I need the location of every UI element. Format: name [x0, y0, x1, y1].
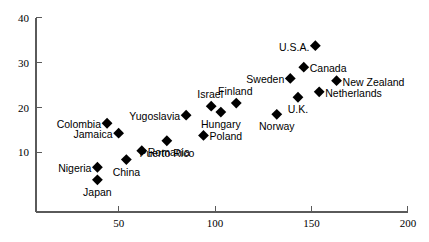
data-point-marker [285, 73, 296, 84]
data-point-marker [293, 92, 304, 103]
data-point-label: Jamaica [74, 129, 113, 140]
data-point-marker [271, 109, 282, 120]
data-point-marker [92, 162, 103, 173]
data-point-marker [231, 98, 242, 109]
data-point-label: Norway [259, 121, 295, 132]
data-point-marker [92, 174, 103, 185]
data-point-marker [331, 75, 342, 86]
data-point-label: Finland [218, 86, 252, 97]
y-axis-tick-label: 20 [18, 102, 29, 113]
data-point-label: U.S.A. [279, 41, 309, 52]
data-point-marker [113, 128, 124, 139]
x-axis-tick-label: 100 [207, 218, 224, 229]
data-point-label: Poland [209, 131, 242, 142]
data-point-label: Canada [310, 63, 347, 74]
data-point-marker [198, 130, 209, 141]
data-point-label: U.K. [288, 104, 308, 115]
data-point-label: China [113, 166, 140, 177]
data-point-label: New Zealand [343, 76, 405, 87]
x-axis-tick-label: 150 [303, 218, 320, 229]
data-point-marker [121, 154, 132, 165]
data-point-label: Sweden [246, 74, 284, 85]
data-point-label: Netherlands [325, 87, 382, 98]
data-point-marker [215, 107, 226, 118]
y-axis-tick-label: 30 [18, 57, 29, 68]
data-point-label: Yugoslavia [129, 111, 180, 122]
data-point-marker [181, 110, 192, 121]
y-axis-tick-label: 10 [18, 147, 29, 158]
y-axis-tick-label: 40 [18, 12, 29, 23]
data-point-marker [206, 101, 217, 112]
data-point-label: Puerto Rico [139, 147, 194, 158]
x-axis-tick-label: 50 [113, 218, 124, 229]
data-point-label: Japan [83, 186, 112, 197]
data-point-marker [298, 62, 309, 73]
data-point-label: Hungary [201, 119, 241, 130]
data-point-marker [310, 40, 321, 51]
scatter-chart: 1020304050100150200NigeriaJapanColombiaJ… [0, 0, 429, 242]
x-axis-tick-label: 200 [400, 218, 417, 229]
data-point-marker [314, 86, 325, 97]
data-point-label: Nigeria [58, 163, 91, 174]
